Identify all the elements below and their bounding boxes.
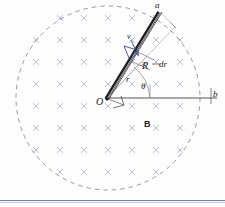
label-point-b: b bbox=[213, 90, 218, 99]
origin-point bbox=[105, 97, 108, 100]
field-cross-icon bbox=[129, 15, 134, 20]
label-origin-O: O bbox=[96, 97, 103, 107]
field-cross-icon bbox=[57, 59, 62, 64]
field-cross-icon bbox=[153, 103, 158, 108]
figure-canvas bbox=[0, 0, 225, 207]
field-cross-icon bbox=[105, 37, 110, 42]
field-cross-icon bbox=[129, 103, 134, 108]
field-cross-icon bbox=[57, 81, 62, 86]
field-cross-icon bbox=[105, 15, 110, 20]
field-cross-icon bbox=[177, 103, 182, 108]
field-cross-icon bbox=[57, 169, 62, 174]
top-tick-marker bbox=[170, 22, 176, 28]
field-cross-icon bbox=[129, 125, 134, 130]
dr-upper-bound bbox=[138, 52, 154, 60]
label-velocity-v: v bbox=[127, 33, 131, 41]
label-radius-R: R bbox=[142, 61, 148, 71]
label-radius-r: r bbox=[126, 75, 130, 84]
field-cross-icon bbox=[33, 37, 38, 42]
field-cross-icon bbox=[105, 125, 110, 130]
field-cross-icon bbox=[33, 147, 38, 152]
label-field-B: B bbox=[144, 120, 151, 129]
field-cross-icon bbox=[105, 103, 110, 108]
field-cross-icon bbox=[33, 125, 38, 130]
physics-figure: a b O r R dr θ v B bbox=[0, 0, 225, 207]
field-cross-icon bbox=[177, 81, 182, 86]
field-cross-icon bbox=[81, 37, 86, 42]
field-cross-icon bbox=[105, 81, 110, 86]
field-cross-icon bbox=[177, 125, 182, 130]
field-cross-icon bbox=[105, 147, 110, 152]
field-cross-icon bbox=[33, 103, 38, 108]
field-cross-icon bbox=[153, 125, 158, 130]
field-cross-icon bbox=[81, 103, 86, 108]
field-cross-icon bbox=[81, 169, 86, 174]
field-cross-icon bbox=[129, 81, 134, 86]
field-cross-icon bbox=[57, 37, 62, 42]
field-cross-icon bbox=[177, 147, 182, 152]
field-cross-icon bbox=[177, 59, 182, 64]
field-cross-icon bbox=[105, 59, 110, 64]
slide-border-line-secondary bbox=[0, 202, 225, 203]
field-cross-icon bbox=[153, 169, 158, 174]
rod-outline bbox=[106, 12, 159, 99]
field-cross-icon bbox=[129, 147, 134, 152]
field-cross-icon bbox=[57, 147, 62, 152]
field-cross-icon bbox=[81, 81, 86, 86]
label-differential-dr: dr bbox=[159, 60, 167, 69]
field-cross-icon bbox=[81, 59, 86, 64]
field-cross-icon bbox=[33, 81, 38, 86]
field-cross-icon bbox=[105, 169, 110, 174]
field-cross-icon bbox=[81, 147, 86, 152]
field-cross-icon bbox=[129, 169, 134, 174]
field-cross-icon bbox=[81, 125, 86, 130]
field-cross-icon bbox=[153, 147, 158, 152]
label-point-a: a bbox=[155, 1, 160, 10]
field-cross-icon bbox=[81, 15, 86, 20]
field-cross-icon bbox=[153, 81, 158, 86]
label-angle-theta: θ bbox=[141, 82, 145, 91]
field-cross-icon bbox=[153, 37, 158, 42]
field-cross-icon bbox=[57, 103, 62, 108]
slide-border-line bbox=[0, 200, 225, 201]
field-cross-icon bbox=[57, 125, 62, 130]
field-cross-icon bbox=[33, 59, 38, 64]
